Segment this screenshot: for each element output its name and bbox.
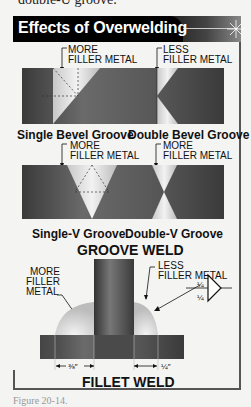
sparkle-icon	[226, 19, 246, 39]
dim-right: ¼″	[161, 362, 171, 371]
caption-double-v: Double-V Groove	[125, 227, 223, 241]
fillet-diagram	[0, 255, 251, 370]
caption-single-v: Single-V Groove	[32, 227, 125, 241]
figure-title: Effects of Overwelding	[18, 19, 187, 37]
dimension-arrows	[0, 360, 251, 372]
top-text: double-U groove.	[18, 0, 117, 8]
frame-left-edge	[13, 370, 15, 390]
figure-caption: Figure 20-14.	[13, 395, 67, 406]
row1-less-label-2: FILLER METAL	[163, 55, 232, 65]
fillet-weld-title: FILLET WELD	[82, 374, 175, 390]
fillet-symbol-top-size: ¼	[197, 280, 204, 289]
dim-left: ⅜″	[68, 362, 78, 371]
v-groove-diagram	[22, 165, 224, 219]
row2-less-label-2: FILLER METAL	[163, 151, 232, 161]
bevel-groove-diagram	[22, 68, 224, 124]
fillet-symbol-bottom-size: ¼	[197, 293, 204, 302]
row1-more-label-2: FILLER METAL	[68, 55, 137, 65]
row2-more-label-2: FILLER METAL	[70, 151, 139, 161]
